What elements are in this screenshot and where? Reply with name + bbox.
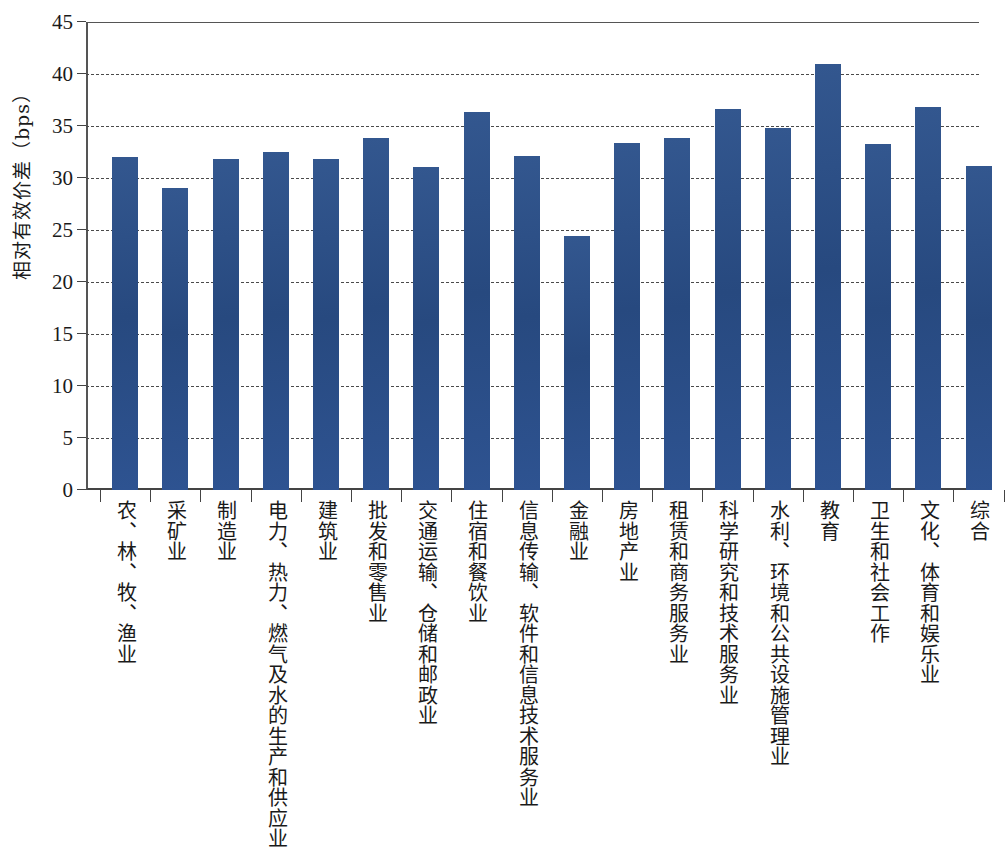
x-axis-labels: 农、林、牧、渔业采矿业制造业电力、热力、燃气及水的生产和供应业建筑业批发和零售业…: [86, 500, 979, 852]
x-axis-category-label: 综合: [968, 500, 989, 541]
y-axis-tick-label: 0: [13, 480, 73, 501]
bar: [313, 159, 339, 490]
x-axis-category-label: 农、林、牧、渔业: [115, 500, 136, 664]
bar: [614, 143, 640, 490]
bar: [263, 152, 289, 490]
x-axis-category-label: 教育: [817, 500, 838, 541]
x-axis-category-label: 信息传输、软件和信息技术服务业: [516, 500, 537, 808]
x-axis-category-label: 电力、热力、燃气及水的生产和供应业: [265, 500, 286, 849]
y-axis-tick-label: 30: [13, 168, 73, 189]
y-axis-tick-mark: [77, 21, 86, 22]
y-axis-tick-mark: [77, 333, 86, 334]
y-axis-tick-mark: [77, 125, 86, 126]
y-axis-tick-mark: [77, 489, 86, 490]
bar: [213, 159, 239, 490]
y-axis-tick-mark: [77, 177, 86, 178]
bar: [564, 236, 590, 490]
x-axis-category-label: 房地产业: [617, 500, 638, 582]
bar: [514, 156, 540, 490]
x-axis-tick-mark: [1004, 490, 1005, 502]
x-axis-category-label: 金融业: [566, 500, 587, 562]
y-axis-tick-label: 5: [13, 428, 73, 449]
y-axis-tick-label: 40: [13, 64, 73, 85]
x-axis-category-label: 水利、环境和公共设施管理业: [767, 500, 788, 767]
y-axis-tick-label: 15: [13, 324, 73, 345]
x-axis-category-label: 采矿业: [165, 500, 186, 562]
bars: [86, 22, 979, 490]
y-axis-tick-mark: [77, 229, 86, 230]
y-axis-tick-mark: [77, 73, 86, 74]
bar: [464, 112, 490, 490]
x-axis-category-label: 住宿和餐饮业: [466, 500, 487, 623]
y-axis-tick-label: 10: [13, 376, 73, 397]
bar: [966, 166, 992, 490]
bar: [664, 138, 690, 490]
y-axis-tick-label: 20: [13, 272, 73, 293]
x-axis-category-label: 卫生和社会工作: [868, 500, 889, 644]
x-axis-category-label: 科学研究和技术服务业: [717, 500, 738, 705]
bar: [413, 167, 439, 490]
bar: [162, 188, 188, 490]
y-axis-tick-label: 45: [13, 12, 73, 33]
bar: [112, 157, 138, 490]
y-axis-tick-mark: [77, 281, 86, 282]
bar: [915, 107, 941, 490]
bar: [765, 128, 791, 490]
x-axis-category-label: 建筑业: [315, 500, 336, 562]
bar: [715, 109, 741, 490]
y-axis-tick-label: 35: [13, 116, 73, 137]
bar: [865, 144, 891, 490]
bar: [815, 64, 841, 490]
x-axis-category-label: 交通运输、仓储和邮政业: [416, 500, 437, 726]
x-axis-category-label: 文化、体育和娱乐业: [918, 500, 939, 685]
y-axis-tick-mark: [77, 437, 86, 438]
bar: [363, 138, 389, 490]
y-axis-tick-mark: [77, 385, 86, 386]
plot-area: 051015202530354045: [86, 22, 979, 490]
x-axis-category-label: 租赁和商务服务业: [667, 500, 688, 664]
x-axis-category-label: 批发和零售业: [366, 500, 387, 623]
y-axis-tick-label: 25: [13, 220, 73, 241]
x-axis-category-label: 制造业: [215, 500, 236, 562]
